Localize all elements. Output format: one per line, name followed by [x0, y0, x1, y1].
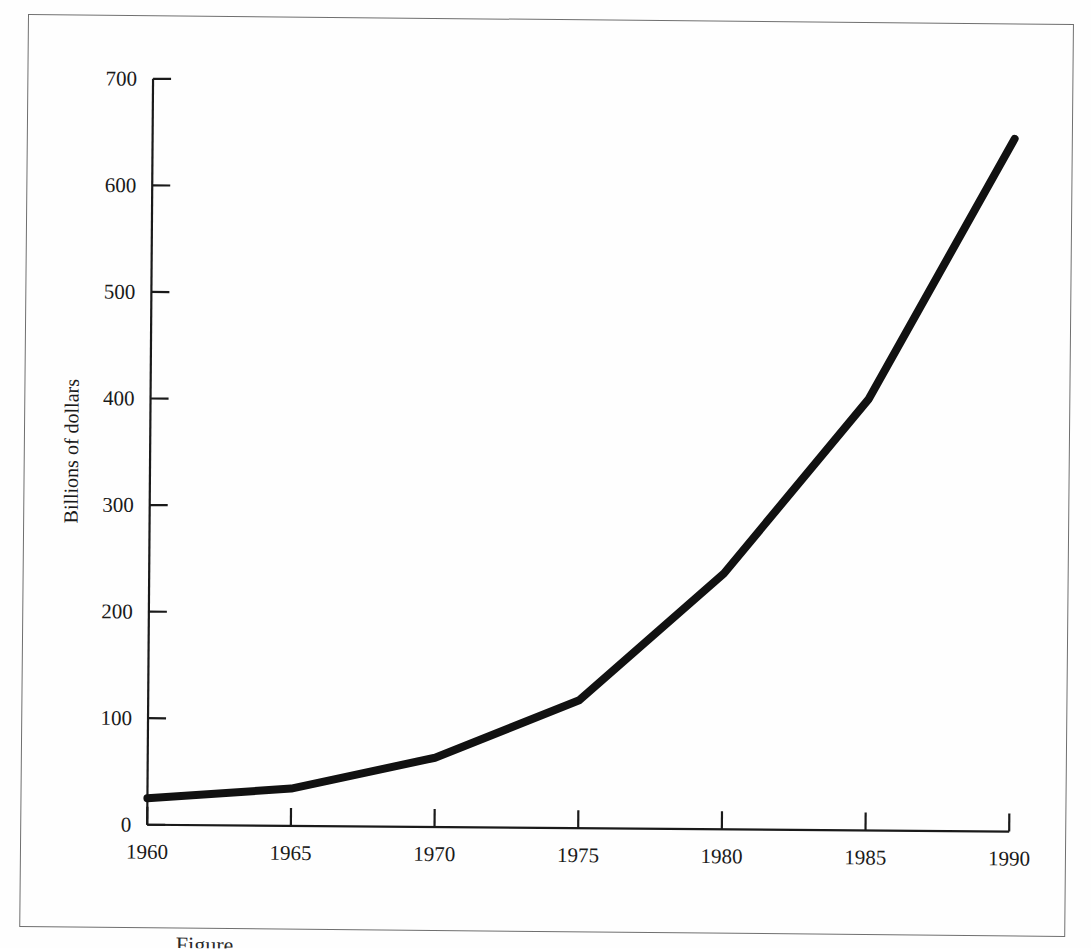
x-tick-label: 1960: [126, 840, 168, 864]
y-tick-label: 500: [104, 280, 136, 304]
x-tick-label: 1980: [701, 844, 743, 868]
axis-spines: [147, 79, 1015, 832]
data-series-line: [147, 132, 1014, 805]
x-tick-label: 1985: [844, 845, 886, 869]
x-axis-ticks: [147, 807, 1009, 832]
line-chart-svg: 0100200300400500600700 19601965197019751…: [0, 0, 1091, 952]
y-tick-label: 600: [105, 173, 137, 197]
y-tick-label: 0: [121, 813, 132, 837]
x-tick-label: 1970: [413, 842, 455, 866]
y-tick-label: 300: [102, 493, 134, 517]
x-tick-label: 1965: [270, 841, 312, 865]
chart-area: 0100200300400500600700 19601965197019751…: [0, 0, 1091, 952]
x-axis-tick-labels: 1960196519701975198019851990: [126, 840, 1030, 871]
y-tick-label: 400: [103, 386, 135, 410]
y-tick-label: 700: [105, 66, 137, 90]
y-tick-label: 100: [100, 706, 132, 730]
y-tick-label: 200: [101, 599, 133, 623]
x-tick-label: 1975: [557, 843, 599, 867]
y-axis-tick-labels: 0100200300400500600700: [100, 66, 138, 836]
figure-caption: Figure: [176, 932, 234, 949]
x-tick-label: 1990: [988, 846, 1030, 870]
y-axis-title: Billions of dollars: [60, 379, 83, 524]
